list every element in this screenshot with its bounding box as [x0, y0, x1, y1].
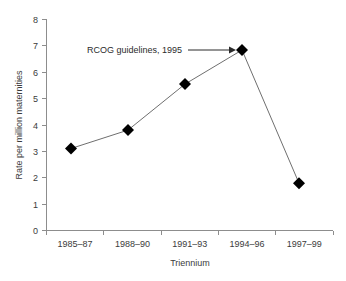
- y-axis-title: Rate per million maternities: [14, 70, 24, 180]
- y-tick-label-3: 3: [33, 147, 38, 157]
- data-point-1997-99: [293, 177, 305, 189]
- data-point-1991-93: [179, 78, 191, 90]
- y-tick-label-2: 2: [33, 173, 38, 183]
- data-point-1994-96: [236, 44, 248, 56]
- y-tick-label-1: 1: [33, 200, 38, 210]
- y-tick-marks: [42, 20, 47, 231]
- x-tick-label-1985-87: 1985–87: [58, 239, 93, 249]
- x-axis-title: Triennium: [170, 258, 210, 268]
- x-tick-label-1994-96: 1994–96: [229, 239, 264, 249]
- annotation-arrow-head: [229, 47, 236, 54]
- y-tick-label-0: 0: [33, 226, 38, 236]
- series-line: [71, 50, 299, 183]
- chart-figure: 8 7 6 5 4 3 2 1 0 1985–87 1988–90 1991–9…: [0, 0, 346, 281]
- y-tick-label-4: 4: [33, 121, 38, 131]
- x-tick-label-1997-99: 1997–99: [287, 239, 322, 249]
- y-tick-label-5: 5: [33, 94, 38, 104]
- x-tick-marks: [47, 231, 334, 236]
- y-tick-label-8: 8: [33, 15, 38, 25]
- data-point-1985-87: [65, 143, 77, 155]
- y-tick-label-6: 6: [33, 68, 38, 78]
- x-tick-label-1988-90: 1988–90: [115, 239, 150, 249]
- annotation-label: RCOG guidelines, 1995: [87, 45, 182, 55]
- y-tick-label-7: 7: [33, 41, 38, 51]
- x-tick-label-1991-93: 1991–93: [172, 239, 207, 249]
- line-chart: 8 7 6 5 4 3 2 1 0 1985–87 1988–90 1991–9…: [0, 0, 346, 281]
- data-point-1988-90: [122, 124, 134, 136]
